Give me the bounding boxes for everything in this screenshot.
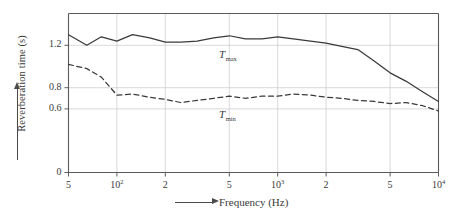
x-tick-label: 5 [375,179,405,190]
axis-ticks [65,45,439,176]
plot-frame [69,14,439,173]
y-axis-title: Reverberation time (s) [16,4,27,164]
x-tick-label: 2 [150,179,180,190]
y-tick-label: 0 [36,166,62,177]
x-tick-label: 102 [102,179,132,190]
y-tick-label: 0.8 [36,81,62,92]
y-tick-label: 1.2 [36,38,62,49]
x-axis-arrow-icon [175,202,213,203]
x-tick-label: 5 [214,179,244,190]
x-axis-title: Frequency (Hz) [219,196,288,208]
x-tick-label: 103 [263,179,293,190]
y-tick-label: 0.6 [36,102,62,113]
curve-t-max [69,35,439,102]
gridlines [69,14,439,173]
x-tick-label: 2 [311,179,341,190]
curve-annotation-t-max: Tmax [219,48,236,60]
reverberation-time-chart: Reverberation time (s) 00.60.81.25102251… [0,0,455,217]
curve-annotation-t-min: Tmin [219,108,235,120]
x-tick-label: 104 [424,179,454,190]
y-axis-title-group: Reverberation time (s) [0,0,30,180]
data-curves [69,35,439,111]
x-axis-title-group: Frequency (Hz) [175,193,288,211]
x-tick-label: 5 [54,179,84,190]
